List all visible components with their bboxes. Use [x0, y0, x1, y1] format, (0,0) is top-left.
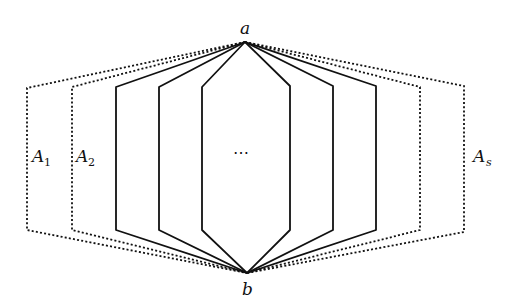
label-as: A s: [471, 146, 492, 169]
svg-text:A: A: [30, 146, 44, 166]
label-a2: A 2: [74, 146, 95, 169]
label-a1: A 1: [30, 146, 51, 169]
svg-text:s: s: [486, 156, 492, 169]
vertex-label-a: a: [240, 18, 250, 38]
ellipsis: ⋯: [233, 143, 249, 162]
svg-text:A: A: [471, 146, 485, 166]
svg-text:A: A: [74, 146, 88, 166]
vertex-label-b: b: [242, 279, 253, 299]
svg-text:1: 1: [44, 156, 51, 169]
path-family-diagram: a b A 1 A 2 A s ⋯: [0, 0, 520, 302]
svg-text:2: 2: [88, 156, 95, 169]
